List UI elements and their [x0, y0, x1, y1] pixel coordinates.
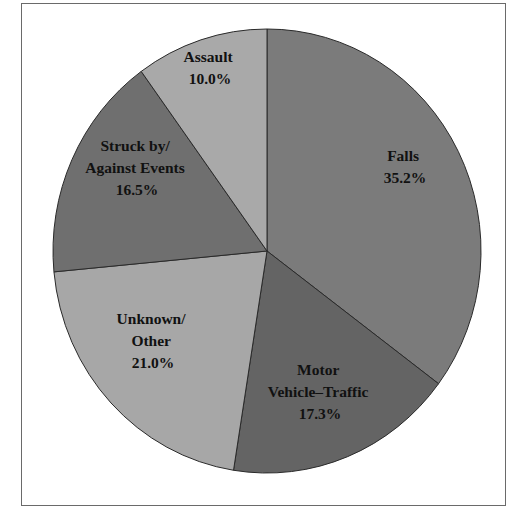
pie-slices [53, 29, 481, 473]
pie-chart: Falls 35.2% Motor Vehicle–Traffic 17.3% … [0, 0, 511, 521]
